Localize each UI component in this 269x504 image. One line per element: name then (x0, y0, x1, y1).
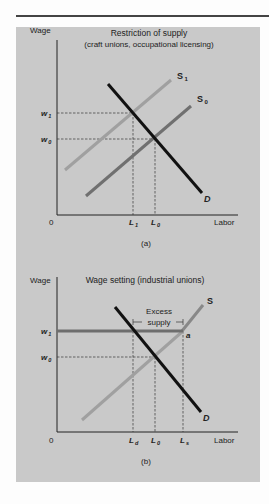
chart-title: Restriction of supply (111, 28, 188, 38)
s1-label: S1 (177, 71, 189, 82)
chart-subtitle: (craft unions, occupational licensing) (84, 40, 214, 49)
origin-label: 0 (49, 436, 54, 445)
y-axis-label: Wage (30, 26, 51, 35)
chart-title: Wage setting (industrial unions) (86, 275, 205, 285)
d-label: D (203, 413, 210, 423)
point-a-label: a (186, 331, 191, 340)
s0-label: S0 (197, 94, 209, 105)
w0-tick: w0 (41, 135, 51, 145)
supply-curve-s (82, 331, 183, 420)
panel-label-a: (a) (141, 239, 151, 248)
ld-tick: Ld (129, 436, 139, 446)
chart-a: Wage Restriction of supply (craft unions… (30, 26, 238, 248)
chart-b: Wage Wage setting (industrial unions) Ex… (30, 275, 238, 466)
origin-label: 0 (49, 218, 54, 227)
w0-tick: w0 (41, 353, 51, 363)
w1-tick: w1 (41, 327, 51, 337)
l0-tick: L0 (151, 436, 160, 446)
d-label: D (204, 194, 211, 204)
excess-label-1: Excess (146, 307, 172, 316)
excess-label-2: supply (147, 318, 170, 327)
y-axis-label: Wage (30, 276, 51, 285)
x-axis-label: Labor (214, 436, 235, 445)
w1-tick: w1 (41, 109, 51, 119)
l1-tick: L1 (129, 218, 138, 228)
panel-label-b: (b) (141, 457, 151, 466)
figure-svg: Wage Restriction of supply (craft unions… (0, 0, 269, 504)
l0-tick: L0 (151, 218, 160, 228)
s-label: S (207, 296, 213, 306)
ls-tick: Ls (180, 436, 189, 446)
x-axis-label: Labor (214, 218, 235, 227)
supply-curve-s-upper (182, 305, 203, 331)
